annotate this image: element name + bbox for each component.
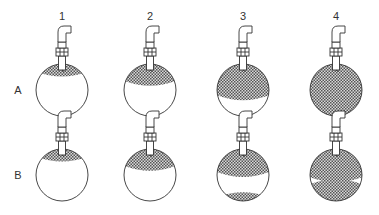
bubble-A4 xyxy=(310,26,362,116)
bubble-A3 xyxy=(217,26,269,116)
row-label: A xyxy=(14,84,22,96)
row-label: B xyxy=(14,169,21,181)
column-label: 3 xyxy=(240,10,246,22)
bubble-A1 xyxy=(36,26,88,116)
bubble-A2 xyxy=(124,26,176,116)
row-labels: AB xyxy=(14,84,22,181)
bubble-B4 xyxy=(310,111,362,201)
column-labels: 1234 xyxy=(59,10,339,22)
bubble-fill-diagram: 1234 AB xyxy=(0,0,379,215)
diagram-cells xyxy=(36,26,362,201)
column-label: 2 xyxy=(147,10,153,22)
column-label: 4 xyxy=(333,10,339,22)
bubble-B3 xyxy=(217,111,269,201)
bubble-B2 xyxy=(124,111,176,201)
bubble-B1 xyxy=(36,111,88,201)
column-label: 1 xyxy=(59,10,65,22)
